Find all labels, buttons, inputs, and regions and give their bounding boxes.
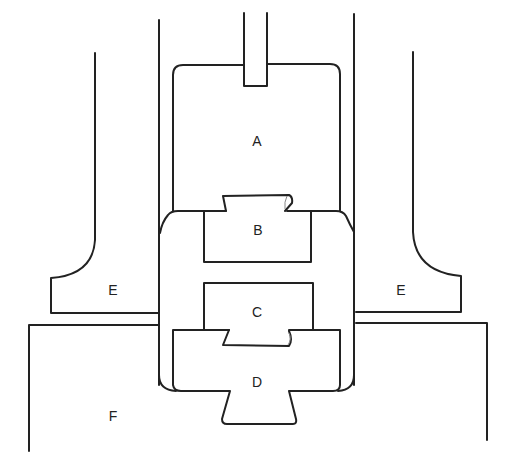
stem (244, 13, 267, 86)
label-b: B (253, 222, 262, 238)
component-c-notch (223, 330, 291, 346)
component-b-notch-highlight (285, 196, 287, 209)
label-e-right: E (396, 282, 405, 298)
flange-e-right (356, 52, 461, 312)
label-d: D (252, 374, 262, 390)
label-e-left: E (108, 282, 117, 298)
label-c: C (252, 304, 262, 320)
base-f-left (29, 325, 159, 451)
base-f-right (356, 323, 487, 440)
label-f: F (109, 408, 118, 424)
flange-e-left (51, 53, 159, 313)
component-b-notch (223, 195, 292, 211)
label-a: A (252, 133, 261, 149)
